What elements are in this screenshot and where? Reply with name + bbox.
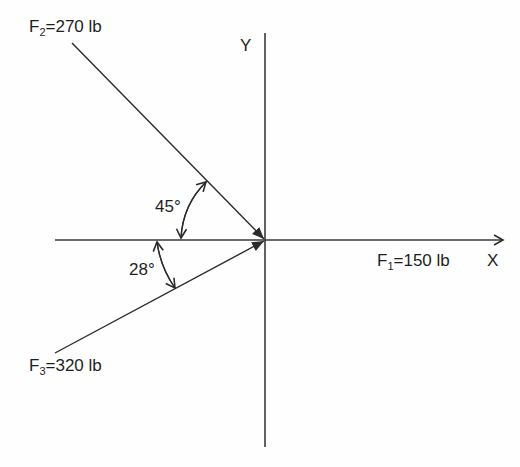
angle-arc-45	[181, 182, 206, 238]
x-axis-label: X	[487, 252, 498, 269]
y-axis-label: Y	[240, 37, 251, 54]
diagram-canvas	[0, 0, 520, 467]
f3-label: F3=320 lb	[29, 357, 102, 374]
angle-arc-28	[157, 242, 175, 288]
f2-label: F2=270 lb	[29, 18, 102, 35]
f3-vector	[55, 241, 264, 353]
angle-label-28: 28°	[129, 261, 155, 278]
force-diagram: F2=270 lb Y 45° 28° F1=150 lb X F3=320 l…	[0, 0, 520, 467]
f1-label: F1=150 lb	[377, 252, 450, 269]
angle-label-45: 45°	[155, 198, 181, 215]
